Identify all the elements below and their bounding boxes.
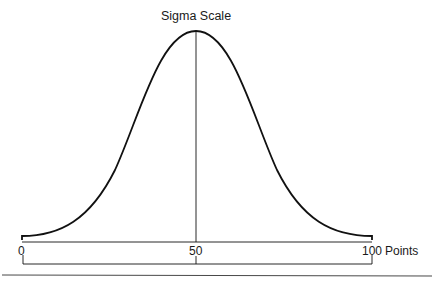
axis-unit-label: Points [385, 245, 418, 257]
tick-label-50: 50 [189, 245, 202, 257]
bottom-rule [2, 275, 432, 276]
sigma-scale-diagram [0, 0, 434, 282]
bell-curve [22, 31, 372, 240]
tick-label-0: 0 [18, 245, 25, 257]
chart-title: Sigma Scale [0, 10, 392, 22]
tick-label-100: 100 [362, 245, 382, 257]
